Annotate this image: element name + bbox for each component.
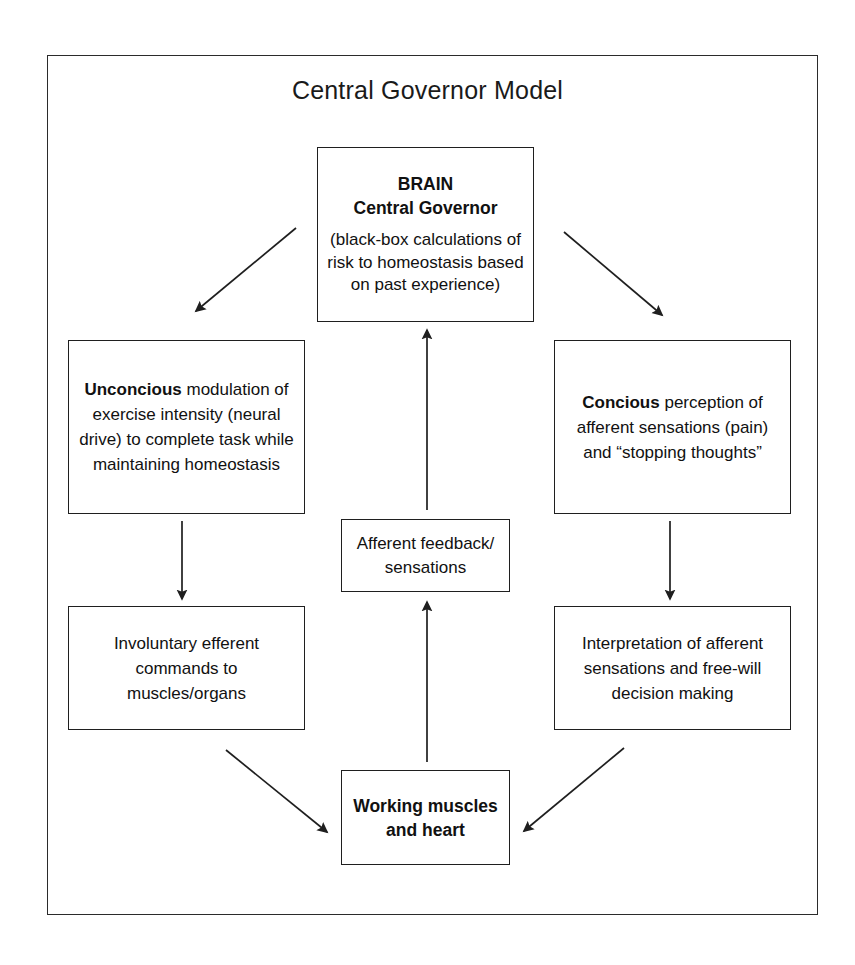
diagram-page: Central Governor Model BRAIN Central Gov… [0,0,855,965]
node-unconscious-modulation: Unconcious modulation of exercise intens… [68,340,305,514]
involuntary-text: Involuntary efferent commands to muscles… [69,631,304,706]
node-involuntary-efferent-commands: Involuntary efferent commands to muscles… [68,606,305,730]
unconscious-lead: Unconcious [84,380,181,399]
node-afferent-feedback: Afferent feedback/ sensations [341,519,510,592]
muscles-line2: and heart [386,820,465,840]
conscious-lead: Concious [582,393,659,412]
brain-heading-line1: BRAIN [324,172,527,196]
interpretation-text: Interpretation of afferent sensations an… [555,631,790,706]
node-conscious-perception: Concious perception of afferent sensatio… [554,340,791,514]
page-title: Central Governor Model [0,75,855,105]
node-interpretation-decision-making: Interpretation of afferent sensations an… [554,606,791,730]
brain-heading-line2: Central Governor [324,196,527,220]
afferent-text: Afferent feedback/ sensations [342,532,509,579]
brain-body-text: (black-box calculations of risk to homeo… [324,229,527,297]
node-brain-central-governor: BRAIN Central Governor (black-box calcul… [317,147,534,322]
node-working-muscles-and-heart: Working muscles and heart [341,770,510,865]
muscles-line1: Working muscles [353,796,498,816]
